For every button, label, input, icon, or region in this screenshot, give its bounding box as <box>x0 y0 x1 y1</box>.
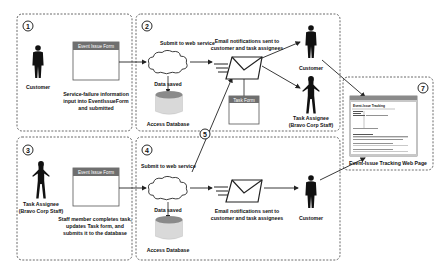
step3-actor-label-2: (Bravo Corp Staff) <box>19 208 64 214</box>
svg-text:Event Issue Form: Event Issue Form <box>78 170 114 175</box>
svg-text:1: 1 <box>26 23 30 30</box>
step3-actor-label-1: Task Assignee <box>23 201 59 207</box>
web-page-thumbnail: Event-Issue Tracking <box>350 96 417 156</box>
access-database-icon <box>156 91 183 114</box>
web-service-cloud-icon <box>148 50 187 73</box>
svg-text:5: 5 <box>203 131 207 138</box>
step4-email-label-1: Email notifications sent to <box>215 208 280 214</box>
step1-desc-2: input into EventIssueForm <box>63 98 129 104</box>
step4-submit-label: Submit to web service <box>141 163 196 169</box>
step2-submit-label: Submit to web service <box>160 40 215 46</box>
step2-customer-label: Customer <box>299 65 323 71</box>
step1-actor-label: Customer <box>26 84 50 90</box>
step2-assignee-label-1: Task Assignee <box>293 115 329 121</box>
step1-desc-3: and submitted <box>78 105 113 111</box>
step-number-3: 3 <box>23 145 33 155</box>
step2-assignee-label-2: (Bravo Corp Staff) <box>289 122 334 128</box>
task-form: Task Form <box>229 96 259 124</box>
svg-text:7: 7 <box>421 85 425 92</box>
step-number-7: 7 <box>418 83 428 93</box>
web-service-cloud-icon <box>148 176 187 199</box>
svg-text:Task Form: Task Form <box>233 98 255 103</box>
svg-text:2: 2 <box>145 23 149 30</box>
web-page-caption: Event-Issue Tracking Web Page <box>349 160 427 166</box>
event-issue-form-3: Event Issue Form <box>73 168 119 206</box>
svg-text:4: 4 <box>145 147 149 154</box>
task-assignee-figure-icon <box>32 161 50 198</box>
svg-text:Event-Issue Tracking: Event-Issue Tracking <box>353 104 385 108</box>
step3-desc-1: Staff member completes task, <box>58 216 132 222</box>
step3-desc-3: submits it to the database <box>63 230 127 236</box>
step4-database-label: Access Database <box>147 247 190 253</box>
customer-figure-icon <box>305 175 316 208</box>
event-issue-form-1: Event Issue Form <box>73 42 119 80</box>
step2-database-label: Access Database <box>147 121 190 127</box>
svg-text:Event Issue Form: Event Issue Form <box>78 44 114 49</box>
workflow-diagram: 1 2 3 4 5 Customer Event Issue Form Serv… <box>0 0 448 276</box>
email-envelope-icon <box>214 180 262 202</box>
step2-email-label-1: Email notifications sent to <box>215 38 280 44</box>
step-number-4: 4 <box>142 145 152 155</box>
step3-desc-2: updates Task form, and <box>66 223 124 229</box>
step2-email-label-2: customer and task assignees <box>211 45 283 51</box>
step-number-5: 5 <box>200 129 210 139</box>
step-number-2: 2 <box>142 21 152 31</box>
step5-connector <box>192 78 232 172</box>
access-database-icon <box>156 216 183 239</box>
step4-email-label-2: customer and task assignees <box>211 215 283 221</box>
task-assignee-figure-icon <box>302 76 320 113</box>
customer-figure-icon <box>32 45 43 78</box>
svg-text:3: 3 <box>26 147 30 154</box>
email-envelope-icon <box>214 57 262 79</box>
customer-figure-icon <box>305 25 316 58</box>
step4-customer-label: Customer <box>299 215 323 221</box>
step1-desc-1: Service-failure information <box>63 91 129 97</box>
step-number-1: 1 <box>23 21 33 31</box>
